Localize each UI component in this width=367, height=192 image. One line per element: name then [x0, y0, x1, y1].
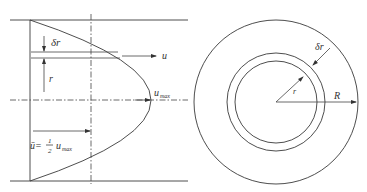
cs-delta-r-label: δr: [315, 41, 324, 52]
umax-label-sub: max: [160, 93, 170, 99]
u-label: u: [162, 50, 167, 61]
half-numerator: 1: [48, 137, 52, 145]
cs-r-label: r: [293, 87, 297, 96]
delta-r-label: δr: [51, 36, 61, 48]
r-label: r: [49, 73, 53, 84]
half-denominator: 2: [48, 147, 52, 155]
mean-velocity-lhs: ū=: [30, 140, 42, 151]
mean-umax-sub: max: [62, 146, 72, 152]
r-radius-arrow-icon: [276, 77, 303, 102]
mean-umax-base: u: [56, 140, 61, 151]
parabolic-profile: [30, 20, 151, 181]
velocity-profile-figure: δr r u u max ū= 1 2 u max: [10, 14, 188, 184]
diagram-canvas: δr r u u max ū= 1 2 u max δr r R: [0, 0, 367, 192]
umax-label-base: u: [154, 87, 159, 98]
cross-section-figure: δr r R: [194, 20, 358, 184]
cs-R-label: R: [333, 90, 340, 101]
